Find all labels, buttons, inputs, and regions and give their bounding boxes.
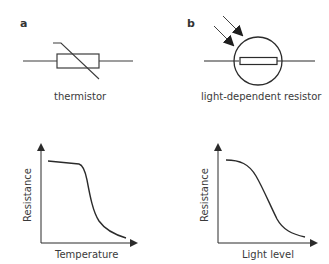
diagram-canvas [0,0,329,264]
ldr-graph [218,147,314,243]
resistor-body [57,54,99,68]
panel-letter-a: a [20,17,27,30]
thermistor-caption: thermistor [54,91,106,102]
resistance-light-curve [226,160,305,237]
graph1-ylabel: Resistance [22,168,33,222]
thermistor-graph [41,147,134,243]
ldr-symbol [204,16,315,85]
graph2-ylabel: Resistance [199,168,210,222]
light-arrow-icon [214,26,233,45]
thermistor-symbol [23,43,133,79]
graph1-xlabel: Temperature [55,249,118,260]
resistance-temperature-curve [48,161,126,238]
resistor-body [240,58,277,65]
panel-letter-b: b [187,17,195,30]
light-arrow-icon [223,16,242,35]
graph2-xlabel: Light level [242,249,294,260]
ldr-caption: light-dependent resistor [201,91,321,102]
